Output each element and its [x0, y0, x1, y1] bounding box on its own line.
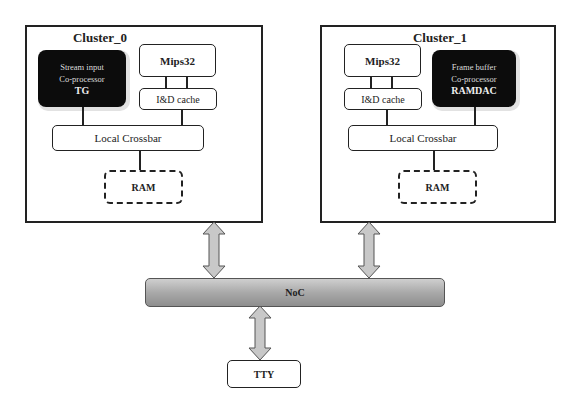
cluster-0-cache: I&D cache	[139, 88, 217, 110]
cluster-1-cache: I&D cache	[344, 88, 422, 110]
cluster-1-ram: RAM	[398, 170, 477, 204]
coprocessor-line2: Co-processor	[59, 73, 104, 85]
coprocessor-line1: Frame buffer	[452, 61, 496, 73]
tty-box: TTY	[227, 360, 301, 388]
cluster-0-title: Cluster_0	[60, 30, 140, 46]
noc-bus: NoC	[145, 278, 445, 307]
coprocessor-line1: Stream input	[60, 61, 104, 73]
cluster-1-coprocessor: Frame buffer Co-processor RAMDAC	[432, 50, 516, 107]
connector	[386, 110, 388, 126]
connector	[82, 107, 84, 126]
cluster-1-cpu: Mips32	[344, 44, 421, 77]
cluster-0-crossbar: Local Crossbar	[52, 125, 204, 151]
cluster-0-coprocessor: Stream input Co-processor TG	[38, 50, 126, 107]
cluster-0-cpu: Mips32	[139, 44, 216, 77]
bidirectional-arrow-icon	[202, 222, 226, 278]
connector	[474, 107, 476, 126]
coprocessor-line2: Co-processor	[451, 73, 496, 85]
connector	[433, 151, 435, 171]
connector	[181, 110, 183, 126]
bidirectional-arrow-icon	[248, 306, 272, 360]
bidirectional-arrow-icon	[357, 222, 381, 278]
cluster-0-ram: RAM	[104, 170, 183, 204]
cluster-1-crossbar: Local Crossbar	[348, 125, 498, 151]
coprocessor-name: TG	[75, 85, 89, 97]
connector	[139, 151, 141, 171]
coprocessor-name: RAMDAC	[451, 85, 497, 97]
